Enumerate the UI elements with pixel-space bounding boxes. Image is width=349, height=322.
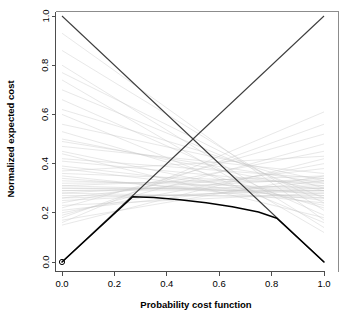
x-tick-label-2: 0.4: [160, 278, 173, 289]
x-tick-label-0: 0.0: [55, 278, 68, 289]
y-axis-title: Normalized expected cost: [5, 80, 16, 198]
x-tick-label-1: 0.2: [108, 278, 121, 289]
x-tick-label-4: 0.8: [265, 278, 278, 289]
x-axis-title: Probability cost function: [140, 299, 252, 310]
chart-svg: 0.00.20.40.60.81.00.00.20.40.60.81.0 Pro…: [0, 0, 349, 322]
cost-curve-plot: 0.00.20.40.60.81.00.00.20.40.60.81.0 Pro…: [0, 0, 349, 322]
y-tick-label-3: 0.6: [40, 108, 51, 121]
x-tick-label-5: 1.0: [317, 278, 330, 289]
x-tick-label-3: 0.6: [213, 278, 226, 289]
y-tick-label-1: 0.2: [40, 206, 51, 219]
y-tick-label-4: 0.8: [40, 59, 51, 72]
y-tick-label-5: 1.0: [40, 9, 51, 22]
y-tick-label-0: 0.0: [40, 255, 51, 268]
y-tick-label-2: 0.4: [40, 157, 51, 170]
